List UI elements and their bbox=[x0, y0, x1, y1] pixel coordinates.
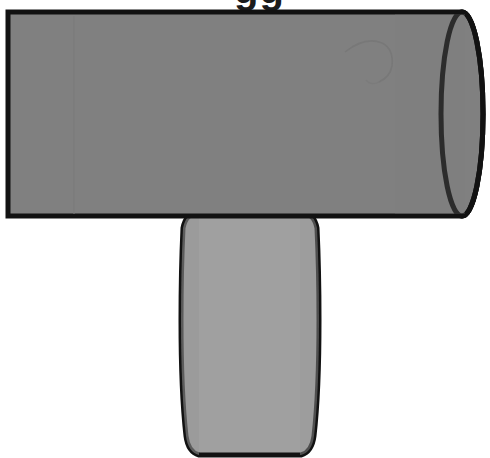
mallet-head-cylinder bbox=[8, 12, 483, 216]
mallet-handle bbox=[181, 213, 320, 457]
mallet-illustration-svg bbox=[0, 0, 490, 458]
illustration-canvas: gg bbox=[0, 0, 490, 458]
cylinder-shade-right bbox=[395, 14, 465, 214]
handle-body-path bbox=[181, 213, 319, 455]
